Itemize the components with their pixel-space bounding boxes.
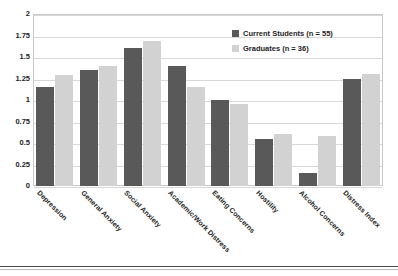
bar — [343, 79, 361, 187]
bar — [362, 74, 380, 186]
x-tick-label: Alcohol Concerns — [298, 189, 346, 237]
bar — [99, 66, 117, 186]
y-tick-label: 0 — [0, 182, 30, 190]
bar — [168, 66, 186, 186]
figure-bottom-rule-secondary — [0, 269, 398, 270]
y-tick-label: 1.25 — [0, 75, 30, 83]
x-tick-label: Distress Index — [342, 189, 382, 229]
y-tick-label: 1.75 — [0, 32, 30, 40]
y-tick-label: 0.75 — [0, 118, 30, 126]
x-tick-label: Social Anxiety — [123, 189, 163, 229]
bar — [36, 87, 54, 186]
bar — [299, 173, 317, 186]
x-tick-label: Hostility — [255, 189, 280, 214]
y-tick-label: 1.5 — [0, 53, 30, 61]
y-axis: 00.250.50.7511.251.51.752 — [0, 14, 30, 186]
legend-swatch-graduates — [232, 45, 239, 52]
x-tick-label: Depression — [36, 189, 69, 222]
bar-group — [80, 14, 117, 186]
x-axis: DepressionGeneral AnxietySocial AnxietyA… — [33, 186, 383, 272]
bar — [211, 100, 229, 186]
legend-item: Current Students (n = 55) — [232, 27, 372, 40]
bar-group — [168, 14, 205, 186]
bar — [274, 134, 292, 186]
bar-group — [124, 14, 161, 186]
bar-group — [36, 14, 73, 186]
bar — [143, 41, 161, 186]
x-tick-label: Eating Concerns — [211, 189, 256, 234]
x-tick-label: General Anxiety — [80, 189, 124, 233]
legend-swatch-current-students — [232, 30, 239, 37]
legend-label-current-students: Current Students (n = 55) — [243, 29, 333, 38]
legend-label-graduates: Graduates (n = 36) — [243, 44, 309, 53]
y-tick-label: 0.5 — [0, 139, 30, 147]
y-tick-label: 2 — [0, 10, 30, 18]
bar — [318, 136, 336, 186]
bar-chart-figure: 00.250.50.7511.251.51.752 DepressionGene… — [0, 0, 398, 276]
bar — [255, 139, 273, 186]
bar — [80, 70, 98, 186]
y-tick-label: 1 — [0, 96, 30, 104]
bar — [187, 87, 205, 186]
figure-bottom-rule — [0, 266, 398, 267]
chart-legend: Current Students (n = 55) Graduates (n =… — [232, 27, 372, 57]
y-tick-label: 0.25 — [0, 161, 30, 169]
legend-item: Graduates (n = 36) — [232, 42, 372, 55]
bar — [230, 104, 248, 186]
bar — [55, 75, 73, 186]
bar — [124, 48, 142, 186]
